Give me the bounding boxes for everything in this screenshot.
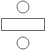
top-dot (17, 1, 29, 13)
divide-icon (0, 0, 46, 52)
divide-bar (2, 19, 45, 31)
bottom-dot (17, 37, 29, 49)
